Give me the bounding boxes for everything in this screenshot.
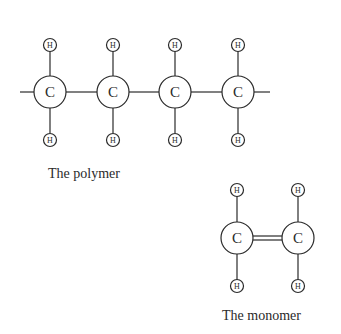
carbon-atom-label: C [232,230,242,246]
hydrogen-atom-label: H [110,136,116,145]
polyethylene-diagram: C C C C C C H H H H H H H H H H H H The … [0,0,341,334]
hydrogen-atom-label: H [295,282,301,291]
hydrogen-atom-label: H [235,136,241,145]
monomer-caption: The monomer [222,308,301,323]
hydrogen-atom-label: H [234,186,240,195]
hydrogen-atom-label: H [172,136,178,145]
carbon-atom-label: C [108,84,118,100]
polymer-caption: The polymer [48,166,120,181]
hydrogen-atom-label: H [235,41,241,50]
hydrogen-atom-label: H [234,282,240,291]
hydrogen-atom-label: H [172,41,178,50]
hydrogen-atom-label: H [295,186,301,195]
diagram: C C C C C C H H H H H H H H H H H H The … [0,0,341,334]
carbon-atom-label: C [293,230,303,246]
carbon-atom-label: C [233,84,243,100]
carbon-atom-label: C [170,84,180,100]
hydrogen-atom-label: H [47,41,53,50]
hydrogen-atom-label: H [110,41,116,50]
hydrogen-atom-label: H [47,136,53,145]
carbon-atom-label: C [45,84,55,100]
